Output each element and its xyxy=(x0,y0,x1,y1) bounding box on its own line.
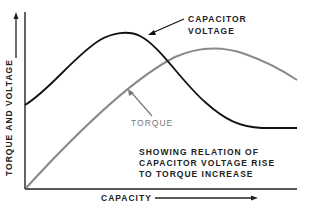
capacitor-voltage-label-line2: VOLTAGE xyxy=(188,26,235,37)
capacitor-voltage-curve xyxy=(25,33,297,128)
caption-line1: SHOWING RELATION OF xyxy=(139,147,259,158)
capacitor-torque-diagram: CAPACITOR VOLTAGE TORQUE SHOWING RELATIO… xyxy=(0,0,315,212)
torque-label: TORQUE xyxy=(131,118,173,129)
x-axis-label: CAPACITY xyxy=(101,193,152,204)
x-label-arrowhead-icon xyxy=(251,196,258,201)
caption-line3: TO TORQUE INCREASE xyxy=(139,169,254,180)
caption-line2: CAPACITOR VOLTAGE RISE xyxy=(139,158,275,169)
capacitor-voltage-label-line1: CAPACITOR xyxy=(188,14,247,25)
diagram-canvas xyxy=(0,0,315,212)
y-axis-label: TORQUE AND VOLTAGE xyxy=(4,59,15,176)
y-label-arrowhead-icon xyxy=(14,12,19,19)
voltage-pointer-line xyxy=(152,19,184,33)
voltage-pointer-arrowhead-icon xyxy=(148,30,156,35)
torque-pointer-line xyxy=(131,92,152,116)
